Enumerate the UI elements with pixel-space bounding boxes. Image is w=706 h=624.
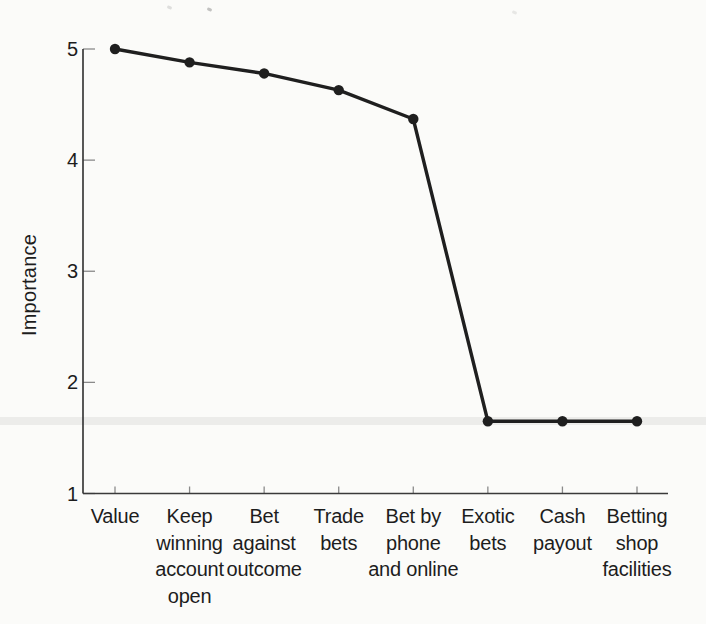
y-axis-title: Importance	[18, 234, 41, 336]
scanned-chart-page: Importance 5 4 3 2 1 Value Keep winning …	[0, 0, 706, 624]
y-tick-label: 5	[34, 36, 78, 62]
y-tick-label: 4	[34, 147, 78, 173]
x-category-label: Betting shop facilities	[580, 503, 694, 583]
y-tick-label: 2	[34, 369, 78, 395]
y-tick-label: 3	[34, 258, 78, 284]
